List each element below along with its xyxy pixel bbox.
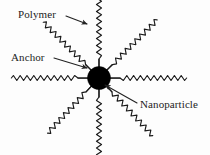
polymer-label: Polymer [18, 8, 56, 20]
chain-up [97, 0, 102, 68]
polymer-nanoparticle-figure: Polymer Anchor Nanoparticle [0, 0, 210, 155]
chain-down [97, 88, 102, 155]
anchor-callout-leader [54, 58, 87, 68]
chain-left [11, 76, 89, 81]
chain-right [109, 76, 187, 81]
callout-leaders-group [54, 16, 137, 103]
polymer-callout-leader [66, 16, 87, 24]
chain-lower-left [48, 85, 93, 133]
chain-lower-right [106, 85, 153, 136]
diagram-canvas: Polymer Anchor Nanoparticle [0, 0, 210, 155]
chain-upper-left [43, 22, 92, 71]
anchor-label: Anchor [11, 51, 45, 63]
chain-upper-right [106, 20, 157, 71]
nanoparticle-label: Nanoparticle [140, 98, 198, 110]
